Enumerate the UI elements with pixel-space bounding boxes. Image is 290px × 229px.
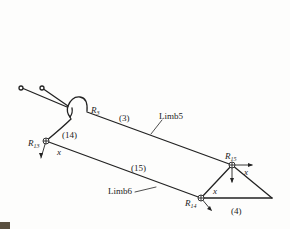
link4-label: (4) <box>231 206 242 216</box>
hub-arc-icon <box>68 97 87 111</box>
limb6-label: Limb6 <box>108 186 132 196</box>
x-axis-label-r14: x <box>212 186 217 196</box>
link14-label: (14) <box>62 130 77 140</box>
r15-label: R15 <box>224 151 237 162</box>
hub-inner <box>70 108 72 117</box>
link3-label: (3) <box>119 113 130 123</box>
corner-mark <box>0 222 10 229</box>
r13-label: R13 <box>27 138 40 149</box>
limb5-label: Limb5 <box>159 111 183 121</box>
r14-label: R14 <box>184 198 197 209</box>
r3-label: R3 <box>90 105 100 116</box>
r13-arrowhead-icon <box>39 153 43 158</box>
limb5-leader <box>151 120 162 134</box>
rod-end-1-icon <box>19 86 23 90</box>
rod-end-2-icon <box>40 86 44 90</box>
platform-edge-2 <box>232 165 272 198</box>
x-axis-label-r13: x <box>56 147 61 157</box>
r15-down-arrowhead-icon <box>230 178 234 183</box>
r15-x-arrowhead-icon <box>248 163 253 167</box>
input-rod-1 <box>22 88 67 107</box>
input-rod-2 <box>42 88 68 106</box>
x-axis-label-r15: x <box>243 167 248 177</box>
limb6-leader <box>135 187 156 192</box>
link15-label: (15) <box>131 163 146 173</box>
diagram-svg: R3 (3) Limb5 (14) R13 x (15) Limb6 R15 x… <box>0 0 290 229</box>
mechanism-diagram: R3 (3) Limb5 (14) R13 x (15) Limb6 R15 x… <box>0 0 290 229</box>
